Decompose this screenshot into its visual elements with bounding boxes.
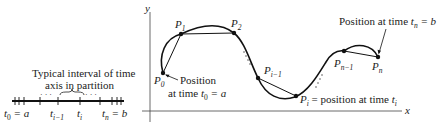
arc-length-diagram: Typical interval of time axis in partiti… <box>0 0 442 124</box>
dots-left: · · · <box>40 90 52 99</box>
point-pi <box>294 94 298 98</box>
point-pn-1 <box>342 49 346 53</box>
end-arrow <box>379 29 386 53</box>
dots-right: · · · <box>85 90 97 99</box>
label-p0: P0 <box>153 74 165 89</box>
label-pn-1: Pn−1 <box>333 57 353 72</box>
label-p1: P1 <box>174 18 185 33</box>
curve-panel: y x P0 P1 P2 Pi−1 Pi <box>142 2 437 122</box>
tick-label-ti-1: ti−1 <box>50 107 64 122</box>
ellipsis-dots <box>243 51 322 87</box>
point-p0 <box>161 71 165 75</box>
point-pn <box>376 55 380 59</box>
label-pn: Pn <box>371 60 383 75</box>
label-p2: P2 <box>230 17 242 32</box>
tick-label-t0: t0 = a <box>4 107 30 122</box>
x-axis-label: x <box>404 104 410 116</box>
y-axis-label: y <box>144 2 150 14</box>
start-annotation-line1: Position <box>180 74 217 86</box>
caption-line-2: axis in partition <box>45 79 115 91</box>
partition-panel: Typical interval of time axis in partiti… <box>4 67 136 122</box>
label-pi-1: Pi−1 <box>263 64 282 79</box>
label-pi: Pi = position at time ti <box>299 93 397 108</box>
tick-label-tn: tn = b <box>102 107 128 122</box>
start-annotation-line2: at time t0 = a <box>168 87 227 102</box>
point-pi-1 <box>256 76 260 80</box>
caption-line-1: Typical interval of time <box>32 67 136 79</box>
tick-label-ti: ti <box>77 107 82 122</box>
end-annotation: Position at time tn = b <box>339 15 437 30</box>
arrow-head-icon <box>378 50 381 55</box>
arrow-head-icon <box>165 75 170 78</box>
point-p2 <box>232 31 236 35</box>
